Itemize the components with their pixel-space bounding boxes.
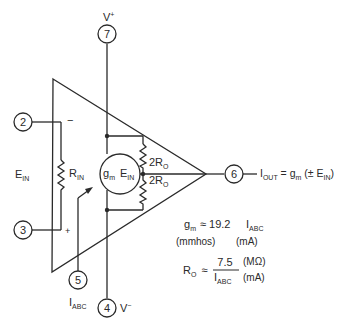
arrow-head-icon xyxy=(85,187,93,194)
pin-3-polarity: + xyxy=(65,226,70,236)
ro-denominator: IABC xyxy=(214,271,231,285)
ro-unit-bottom: (mA) xyxy=(243,272,265,283)
pin-4-label: V− xyxy=(120,302,131,314)
output-current-equation: IOUT = gm (± EIN) xyxy=(260,167,334,181)
rin-label: RIN xyxy=(69,167,84,181)
resistor-2ro-lower xyxy=(140,174,146,210)
pin-7-label: V+ xyxy=(103,11,114,23)
ro-numerator: 7.5 xyxy=(217,256,232,268)
pin-7-number: 7 xyxy=(104,28,110,40)
gm-unit-right: (mA) xyxy=(236,236,258,247)
pin-5-number: 5 xyxy=(75,274,81,286)
gm-formula: gm≈19.2 xyxy=(184,218,230,232)
gm-unit-left: (mmhos) xyxy=(176,236,215,247)
ro-unit-top: (MΩ) xyxy=(243,256,265,267)
pin-5-label: IABC xyxy=(69,296,86,310)
ro-lower-label: 2RO xyxy=(149,174,169,188)
pin-2-polarity: − xyxy=(67,114,73,126)
pin-3-number: 3 xyxy=(20,224,26,236)
gm-variable: IABC xyxy=(246,218,263,232)
ro-upper-label: 2RO xyxy=(149,156,169,170)
pin-2-number: 2 xyxy=(20,116,26,128)
pin-4-number: 4 xyxy=(104,302,110,314)
pin-6-number: 6 xyxy=(231,168,237,180)
ro-formula-lhs: RO≈ xyxy=(183,264,207,278)
ota-circuit-diagram: 7 V+ 2RO 2RO gm EIN 4 V− 2 − RIN 3 + EIN… xyxy=(0,0,354,334)
resistor-2ro-upper xyxy=(140,144,146,174)
input-voltage-label: EIN xyxy=(15,168,29,182)
resistor-rin xyxy=(58,160,64,230)
